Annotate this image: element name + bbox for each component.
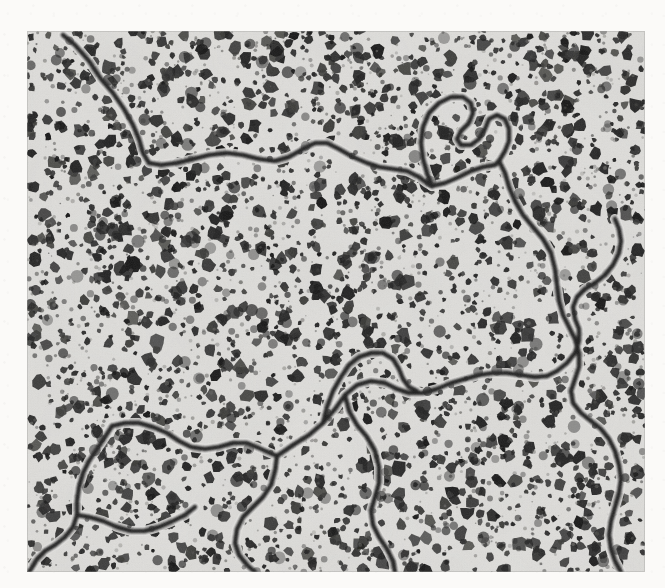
figure-page [0, 0, 665, 588]
caption-area [0, 572, 665, 588]
micrograph-image [27, 31, 645, 572]
film-grain [27, 31, 645, 572]
micrograph-canvas [27, 31, 645, 572]
